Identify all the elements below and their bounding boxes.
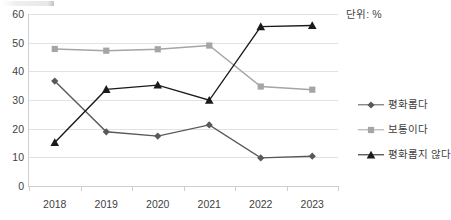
data-point (154, 133, 161, 140)
series-square (52, 42, 316, 92)
data-point (257, 154, 264, 161)
legend-swatch (358, 99, 384, 111)
x-axis-tick-label: 2018 (43, 198, 66, 210)
legend-item[interactable]: 보통이다 (358, 117, 448, 142)
x-axis-tick-mark (81, 186, 82, 191)
x-axis-tick-mark (338, 186, 339, 191)
x-axis-tick-mark (29, 186, 30, 191)
data-point (206, 42, 212, 48)
data-point (52, 46, 58, 52)
legend-marker-diamond-icon (358, 99, 384, 111)
legend-item[interactable]: 평화롭다 (358, 92, 448, 117)
data-point (206, 121, 213, 128)
y-axis-tick-label: 0 (0, 180, 24, 192)
x-axis-tick-label: 2019 (95, 198, 118, 210)
series-layer (29, 14, 338, 186)
series-line (55, 46, 313, 90)
legend-label: 평화롭다 (388, 99, 428, 110)
series-triangle (50, 21, 316, 146)
y-axis-tick-label: 10 (0, 151, 24, 163)
plot-area: 0102030405060 201820192020202120222023 (29, 14, 338, 186)
data-point (258, 83, 264, 89)
x-axis-tick-mark (132, 186, 133, 191)
y-axis-tick-label: 40 (0, 65, 24, 77)
legend-label: 보통이다 (388, 124, 428, 135)
x-axis-tick-label: 2023 (301, 198, 324, 210)
data-point (103, 48, 109, 54)
unit-note: 단위: % (346, 6, 382, 21)
legend: 평화롭다보통이다평화롭지 않다 (358, 92, 448, 167)
x-axis-tick-label: 2021 (198, 198, 221, 210)
legend-marker-triangle-icon (358, 149, 384, 161)
y-axis-tick-label: 50 (0, 37, 24, 49)
x-axis-tick-label: 2022 (249, 198, 272, 210)
legend-label: 평화롭지 않다 (388, 149, 451, 160)
legend-swatch (358, 124, 384, 136)
data-point (309, 153, 316, 160)
series-diamond (51, 77, 316, 161)
data-point (309, 87, 315, 93)
legend-item[interactable]: 평화롭지 않다 (358, 142, 448, 167)
y-axis-tick-label: 30 (0, 94, 24, 106)
x-axis-tick-mark (235, 186, 236, 191)
x-axis-tick-label: 2020 (146, 198, 169, 210)
series-line (55, 25, 313, 142)
x-axis-tick-mark (287, 186, 288, 191)
y-axis-tick-label: 20 (0, 123, 24, 135)
legend-marker-square-icon (358, 124, 384, 136)
legend-swatch (358, 149, 384, 161)
x-axis-tick-mark (184, 186, 185, 191)
top-edge-artifact (2, 1, 54, 6)
y-axis-tick-label: 60 (0, 8, 24, 20)
data-point (155, 46, 161, 52)
